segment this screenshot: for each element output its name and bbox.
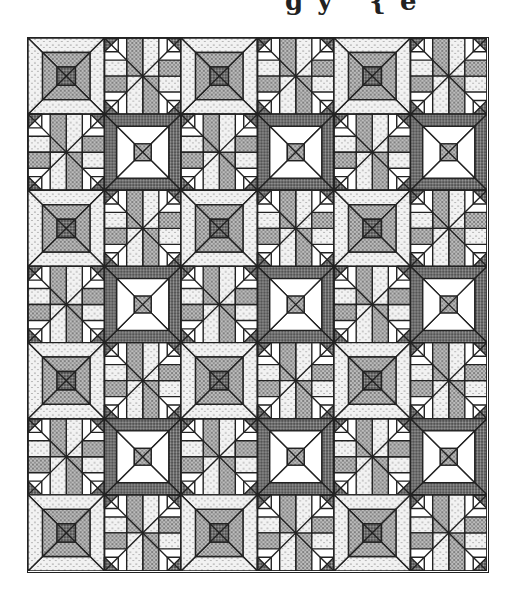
quilt-block-star — [28, 114, 105, 190]
quilt-block-dark — [105, 419, 182, 495]
quilt-block-star — [181, 419, 258, 495]
title-text-fragment: gy {e — [285, 0, 431, 16]
quilt-block-dark — [411, 419, 488, 495]
quilt-block-star — [334, 419, 411, 495]
quilt-block-star — [334, 266, 411, 342]
quilt-block-dark — [411, 114, 488, 190]
quilt-block-star — [258, 38, 335, 114]
quilt-block-light — [334, 343, 411, 419]
quilt-block-star — [28, 266, 105, 342]
quilt-block-light — [181, 38, 258, 114]
quilt-block-star — [28, 419, 105, 495]
quilt-block-light — [181, 343, 258, 419]
quilt-block-light — [28, 495, 105, 571]
quilt-block-dark — [258, 419, 335, 495]
quilt-grid — [28, 38, 487, 571]
quilt-block-star — [411, 343, 488, 419]
quilt-block-light — [28, 38, 105, 114]
quilt-pattern — [27, 37, 489, 573]
quilt-block-star — [258, 495, 335, 571]
quilt-block-star — [181, 114, 258, 190]
quilt-block-dark — [258, 266, 335, 342]
quilt-block-light — [334, 495, 411, 571]
quilt-block-star — [105, 495, 182, 571]
quilt-block-dark — [411, 266, 488, 342]
quilt-block-star — [181, 266, 258, 342]
quilt-block-star — [258, 343, 335, 419]
quilt-block-star — [411, 190, 488, 266]
quilt-block-star — [334, 114, 411, 190]
quilt-block-star — [258, 190, 335, 266]
quilt-block-star — [411, 495, 488, 571]
quilt-block-light — [181, 190, 258, 266]
quilt-block-star — [105, 343, 182, 419]
quilt-block-light — [334, 38, 411, 114]
quilt-block-dark — [258, 114, 335, 190]
quilt-block-light — [28, 343, 105, 419]
quilt-block-star — [411, 38, 488, 114]
quilt-block-dark — [105, 266, 182, 342]
quilt-block-star — [105, 38, 182, 114]
quilt-block-dark — [105, 114, 182, 190]
quilt-block-light — [334, 190, 411, 266]
quilt-block-light — [181, 495, 258, 571]
quilt-block-star — [105, 190, 182, 266]
quilt-block-light — [28, 190, 105, 266]
